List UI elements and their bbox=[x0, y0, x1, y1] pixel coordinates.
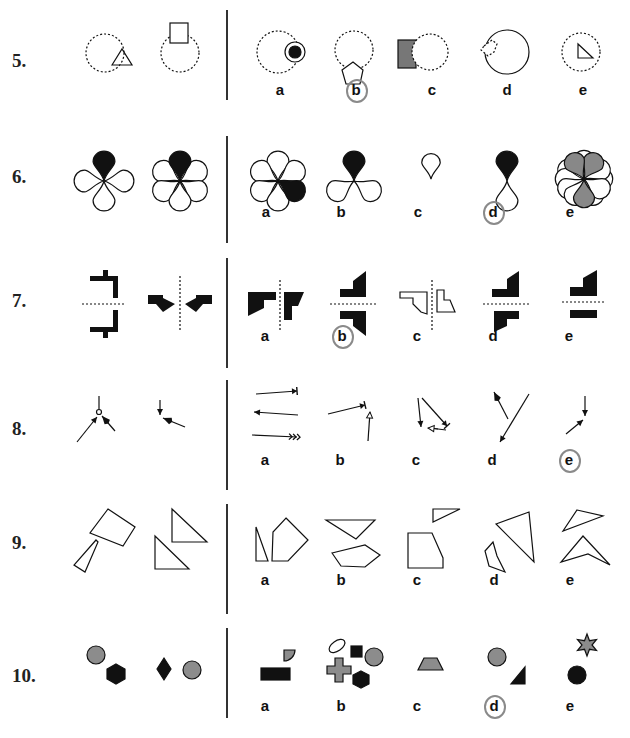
option-label-e[interactable]: e bbox=[555, 571, 585, 588]
option-label-b[interactable]: b bbox=[326, 203, 356, 220]
polygon-shape bbox=[248, 292, 276, 316]
question-row-q6: 6. abcde bbox=[0, 120, 630, 240]
arrow-shaft bbox=[422, 398, 447, 426]
arrowhead-icon bbox=[367, 412, 373, 418]
polygon-shape bbox=[148, 295, 175, 312]
option-label-b[interactable]: b bbox=[326, 697, 356, 714]
polygon-shape bbox=[256, 527, 268, 561]
path-shape bbox=[284, 650, 295, 661]
petal-shape bbox=[496, 151, 518, 181]
polygon-shape bbox=[481, 40, 497, 56]
option-label-e[interactable]: e bbox=[555, 697, 585, 714]
polygon-shape bbox=[578, 44, 593, 58]
arrow-shaft bbox=[254, 412, 298, 415]
polygon-shape bbox=[332, 545, 380, 567]
polygon-shape bbox=[400, 292, 427, 314]
question-row-q10: 10. abcde bbox=[0, 600, 630, 738]
option-label-c[interactable]: c bbox=[403, 203, 433, 220]
arrowhead-icon bbox=[582, 410, 588, 416]
arrowhead-icon bbox=[428, 425, 435, 432]
option-label-a[interactable]: a bbox=[250, 571, 280, 588]
arrowhead-icon bbox=[359, 401, 366, 410]
figure-canvas bbox=[0, 480, 630, 600]
answer-circle-mark bbox=[332, 325, 354, 349]
option-label-c[interactable]: c bbox=[401, 451, 431, 468]
answer-circle-mark bbox=[483, 201, 505, 225]
arrowhead-icon bbox=[254, 409, 260, 415]
polygon-shape bbox=[172, 509, 207, 542]
arrow-shaft bbox=[500, 394, 529, 442]
polygon-shape bbox=[185, 295, 212, 312]
ellipse-shape bbox=[327, 637, 347, 656]
option-label-a[interactable]: a bbox=[250, 697, 280, 714]
option-label-c[interactable]: c bbox=[417, 81, 447, 98]
option-label-e[interactable]: e bbox=[568, 81, 598, 98]
option-label-a[interactable]: a bbox=[251, 203, 281, 220]
path-shape bbox=[327, 658, 351, 682]
flower-shape bbox=[422, 154, 440, 179]
polygon-shape bbox=[433, 509, 460, 522]
polygon-shape bbox=[408, 533, 443, 568]
circle-shape bbox=[86, 34, 124, 72]
option-label-c[interactable]: c bbox=[402, 327, 432, 344]
rect-shape bbox=[570, 310, 597, 318]
option-label-b[interactable]: b bbox=[326, 571, 356, 588]
polygon-shape bbox=[74, 540, 98, 572]
answer-circle-mark bbox=[559, 449, 581, 473]
petal-shape bbox=[104, 170, 134, 192]
arrow-shaft bbox=[328, 405, 365, 414]
option-label-c[interactable]: c bbox=[402, 571, 432, 588]
polygon-shape bbox=[326, 520, 375, 539]
option-label-d[interactable]: d bbox=[479, 571, 509, 588]
figure-canvas bbox=[0, 120, 630, 240]
arrowhead-icon bbox=[491, 390, 502, 402]
polygon-shape bbox=[90, 270, 118, 298]
option-label-a[interactable]: a bbox=[250, 451, 280, 468]
flower-shape bbox=[74, 151, 134, 211]
polygon-shape bbox=[437, 290, 455, 312]
rect-shape bbox=[261, 668, 290, 680]
arrowhead-icon bbox=[292, 387, 298, 395]
rect-shape bbox=[351, 646, 362, 657]
polygon-shape bbox=[418, 658, 443, 670]
circle-shape bbox=[412, 34, 448, 70]
answer-circle-mark bbox=[346, 79, 368, 103]
polygon-shape bbox=[563, 510, 603, 531]
petal-shape bbox=[74, 170, 104, 192]
arrowhead-icon bbox=[497, 435, 505, 443]
answer-circle-mark bbox=[484, 695, 506, 719]
polygon-shape bbox=[511, 667, 525, 684]
circle-shape bbox=[87, 646, 105, 664]
flower-shape bbox=[323, 151, 386, 205]
option-label-c[interactable]: c bbox=[402, 697, 432, 714]
circle-shape bbox=[97, 410, 102, 415]
figure-canvas bbox=[0, 240, 630, 360]
flower-shape bbox=[149, 151, 212, 211]
option-label-e[interactable]: e bbox=[555, 203, 585, 220]
option-label-d[interactable]: d bbox=[478, 327, 508, 344]
option-label-b[interactable]: b bbox=[325, 451, 355, 468]
flower-shape bbox=[554, 149, 614, 209]
option-label-e[interactable]: e bbox=[554, 327, 584, 344]
option-label-d[interactable]: d bbox=[477, 451, 507, 468]
polygon-shape bbox=[496, 512, 534, 562]
arrowhead-icon bbox=[417, 421, 424, 428]
question-row-q5: 5. abcde bbox=[0, 0, 630, 120]
polygon-shape bbox=[340, 271, 366, 297]
option-label-a[interactable]: a bbox=[265, 81, 295, 98]
petal-shape bbox=[93, 181, 115, 211]
arrow-shaft bbox=[256, 391, 297, 394]
polygon-shape bbox=[157, 658, 171, 680]
polygon-shape bbox=[570, 270, 597, 296]
polygon-shape bbox=[492, 271, 519, 297]
star-shape bbox=[578, 634, 597, 656]
circle-shape bbox=[183, 661, 201, 679]
question-row-q8: 8. abcde bbox=[0, 360, 630, 490]
petal-shape bbox=[93, 151, 115, 181]
polygon-shape bbox=[485, 542, 505, 572]
petal-shape bbox=[422, 154, 440, 179]
option-label-d[interactable]: d bbox=[492, 81, 522, 98]
figure-canvas bbox=[0, 600, 630, 738]
polygon-shape bbox=[561, 536, 610, 565]
option-label-a[interactable]: a bbox=[250, 327, 280, 344]
